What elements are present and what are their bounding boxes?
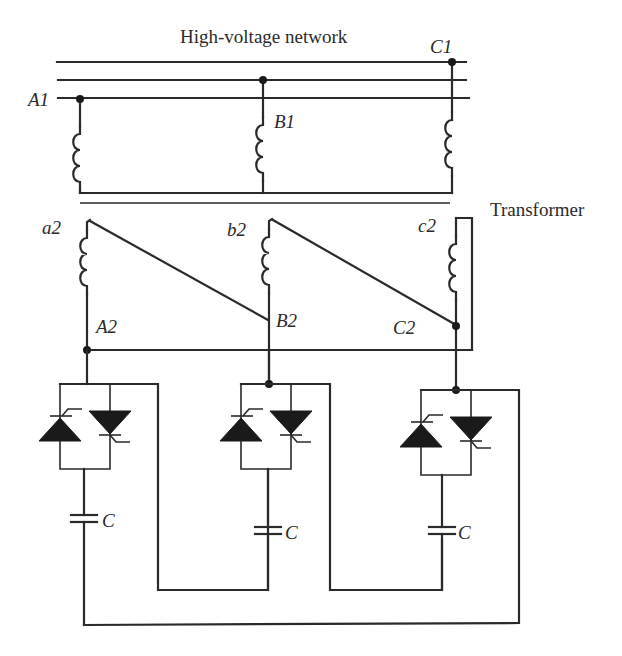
winding-label-c2: c2 [418,215,436,236]
winding-label-a2: a2 [42,217,62,238]
transformer-label: Transformer [490,199,585,220]
node-label-c2: C2 [393,317,416,338]
primary-winding-c [445,58,456,193]
return-wire-a [60,384,268,590]
capacitor-label-b: C [285,522,298,543]
primary-winding-a [73,95,84,193]
phase-a-branch: C [39,350,268,625]
c2-return-wire [456,218,472,350]
node-label-a1: A1 [26,89,49,110]
phase-b-branch: C [220,350,442,590]
return-wire-c [84,390,519,625]
junction-dot [448,58,456,66]
thyristor-pair-c [400,390,492,475]
thyristor-pair-b [220,384,312,469]
return-wire-b [241,384,442,590]
winding-label-b2: b2 [227,219,247,240]
network-title: High-voltage network [180,26,348,47]
capacitor-label-c: C [458,522,471,543]
node-label-b2: B2 [276,310,298,331]
node-label-a2: A2 [94,316,118,337]
junction-dot [452,322,460,330]
secondary-winding-b [262,219,456,384]
circuit-diagram: High-voltage network A1 B1 C1 Transforme… [0,0,622,656]
node-label-b1: B1 [274,111,295,132]
node-label-c1: C1 [430,36,452,57]
thyristor-pair-a [39,384,131,469]
junction-dot [76,95,84,103]
secondary-winding-c [449,218,472,390]
primary-winding-b [256,76,267,193]
junction-dot [259,76,267,84]
capacitor-label-a: C [102,510,115,531]
